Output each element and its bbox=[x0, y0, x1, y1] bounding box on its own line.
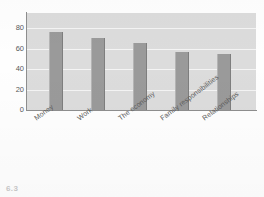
figure-container: 80 60 40 20 0 Money Work The economy Fam… bbox=[0, 0, 264, 197]
y-tick-label-60: 60 bbox=[2, 45, 24, 53]
bar-money bbox=[49, 32, 63, 110]
gridline-80 bbox=[27, 28, 256, 29]
y-tick-label-80: 80 bbox=[2, 24, 24, 32]
y-axis-tick-labels: 80 60 40 20 0 bbox=[0, 0, 24, 197]
y-axis-line bbox=[26, 12, 27, 111]
y-tick-label-40: 40 bbox=[2, 65, 24, 73]
plot-area bbox=[27, 13, 256, 110]
x-axis-line bbox=[26, 110, 257, 111]
bar-work bbox=[91, 38, 105, 110]
y-tick-label-0: 0 bbox=[2, 106, 24, 114]
figure-caption: 6.3 bbox=[6, 184, 18, 193]
y-tick-label-20: 20 bbox=[2, 86, 24, 94]
